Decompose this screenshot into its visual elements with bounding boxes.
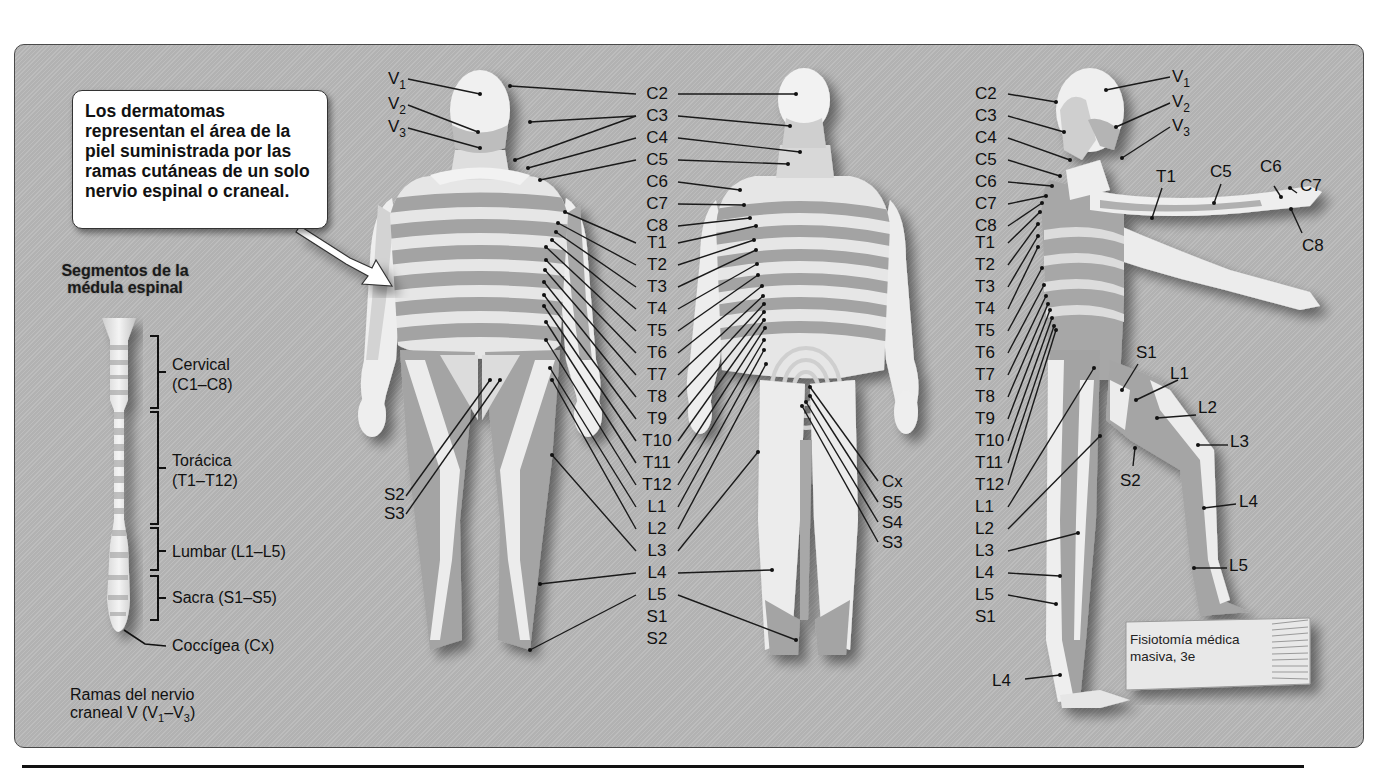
label-s2-anterior: S2 (384, 485, 405, 504)
central-label-t6: T6 (647, 343, 667, 362)
central-label-l4: L4 (648, 563, 667, 582)
lateral-label-t7: T7 (975, 365, 995, 384)
spinal-brackets (124, 336, 166, 646)
central-label-t9: T9 (647, 409, 667, 428)
central-label-c3: C3 (646, 106, 668, 125)
label-s4-posterior: S4 (882, 513, 903, 532)
lateral-label-l1: L1 (975, 497, 994, 516)
spinal-region-labels: Cervical (C1–C8) Torácica (T1–T12) Lumba… (172, 356, 286, 654)
central-label-l3: L3 (648, 541, 667, 560)
label-v3-lateral: V3 (1172, 116, 1190, 139)
label-v1-anterior: V1 (388, 69, 406, 92)
central-label-s1: S1 (647, 607, 668, 626)
book-cover-text: Fisiotomía médica masiva, 3e (1130, 631, 1240, 665)
label-l1-leg: L1 (1170, 364, 1189, 383)
lateral-label-t10: T10 (975, 431, 1004, 450)
spinal-cord-figure (102, 318, 136, 632)
definition-callout: Los dermatomas representan el área de la… (72, 90, 328, 229)
anterior-sacral-labels: S2 S3 (384, 485, 405, 523)
central-label-c4: C4 (646, 128, 668, 147)
central-label-t5: T5 (647, 321, 667, 340)
anterior-trigeminal-labels: V1 V2 V3 (388, 69, 406, 140)
label-s5-posterior: S5 (882, 493, 903, 512)
central-label-l1: L1 (648, 497, 667, 516)
spinal-title-line1: Segmentos de la (60, 262, 190, 279)
lateral-label-t2: T2 (975, 255, 995, 274)
lateral-label-c2: C2 (975, 84, 997, 103)
central-label-t8: T8 (647, 387, 667, 406)
lateral-trigeminal-labels: V1 V2 V3 (1172, 67, 1190, 139)
label-v3-anterior: V3 (388, 117, 406, 140)
label-cx-posterior: Cx (882, 472, 903, 491)
central-label-t3: T3 (647, 277, 667, 296)
label-l4-foot: L4 (992, 671, 1011, 690)
lateral-label-c4: C4 (975, 128, 997, 147)
central-label-t10: T10 (642, 431, 671, 450)
label-v1-lateral: V1 (1172, 67, 1190, 90)
lateral-label-c3: C3 (975, 106, 997, 125)
lateral-segment-labels: C2C3C4C5C6C7C8T1T2T3T4T5T6T7T8T9T10T11T1… (975, 84, 1004, 626)
lateral-label-c7: C7 (975, 194, 997, 213)
label-s3-anterior: S3 (384, 504, 405, 523)
label-c7-arm: C7 (1300, 176, 1322, 195)
label-s1-leg: S1 (1136, 343, 1157, 362)
cranial-note-line2: craneal V (V1–V3) (70, 704, 195, 727)
cranial-note-line1: Ramas del nervio (70, 686, 195, 704)
spinal-title-line2: médula espinal (60, 279, 190, 296)
central-label-c7: C7 (646, 194, 668, 213)
central-label-l2: L2 (648, 519, 667, 538)
central-label-t4: T4 (647, 299, 667, 318)
region-cervical: Cervical (172, 356, 230, 373)
label-s2-leg: S2 (1120, 471, 1141, 490)
central-label-t7: T7 (647, 365, 667, 384)
central-label-t1: T1 (647, 233, 667, 252)
lateral-label-l3: L3 (975, 541, 994, 560)
callout-text: Los dermatomas representan el área de la… (85, 101, 315, 201)
label-c5-arm: C5 (1210, 162, 1232, 181)
lateral-label-t12: T12 (975, 475, 1004, 494)
cranial-nerve-note: Ramas del nervio craneal V (V1–V3) (70, 686, 195, 727)
posterior-sacral-labels: Cx S5 S4 S3 (882, 472, 903, 552)
central-label-c2: C2 (646, 84, 668, 103)
central-label-s2: S2 (647, 629, 668, 648)
central-label-c5: C5 (646, 150, 668, 169)
lateral-label-t8: T8 (975, 387, 995, 406)
spinal-segments-title: Segmentos de la médula espinal (60, 262, 190, 296)
lateral-label-l4: L4 (975, 563, 994, 582)
central-label-l5: L5 (648, 585, 667, 604)
region-thoracic: Torácica (172, 452, 232, 469)
lateral-label-c6: C6 (975, 172, 997, 191)
label-c8-arm: C8 (1302, 236, 1324, 255)
central-label-t11: T11 (643, 453, 671, 472)
lateral-label-t5: T5 (975, 321, 995, 340)
lateral-label-t4: T4 (975, 299, 995, 318)
central-label-t12: T12 (642, 475, 671, 494)
posterior-body (687, 68, 919, 655)
bottom-rule (22, 765, 1304, 768)
label-l2-leg: L2 (1198, 398, 1217, 417)
region-sacral: Sacra (S1–S5) (172, 589, 277, 606)
lateral-label-l2: L2 (975, 519, 994, 538)
region-cervical-range: (C1–C8) (172, 376, 232, 393)
lateral-label-c5: C5 (975, 150, 997, 169)
label-c6-arm: C6 (1260, 157, 1282, 176)
central-segment-labels: C2C3C4C5C6C7C8T1T2T3T4T5T6T7T8T9T10T11T1… (642, 84, 671, 648)
region-coccygeal: Coccígea (Cx) (172, 637, 274, 654)
book-title-line2: masiva, 3e (1130, 648, 1240, 665)
region-thoracic-range: (T1–T12) (172, 472, 238, 489)
label-s3-posterior: S3 (882, 533, 903, 552)
lateral-label-t3: T3 (975, 277, 995, 296)
central-label-t2: T2 (647, 255, 667, 274)
lateral-label-s1: S1 (975, 607, 996, 626)
label-l3-leg: L3 (1230, 432, 1249, 451)
lateral-label-t1: T1 (975, 233, 995, 252)
label-v2-lateral: V2 (1172, 92, 1190, 115)
label-l5-leg: L5 (1229, 556, 1248, 575)
lateral-label-t6: T6 (975, 343, 995, 362)
lateral-label-t9: T9 (975, 409, 995, 428)
region-lumbar: Lumbar (L1–L5) (172, 543, 286, 560)
central-label-c6: C6 (646, 172, 668, 191)
lateral-label-l5: L5 (975, 585, 994, 604)
label-t1-arm: T1 (1156, 167, 1176, 186)
label-v2-anterior: V2 (388, 94, 406, 117)
